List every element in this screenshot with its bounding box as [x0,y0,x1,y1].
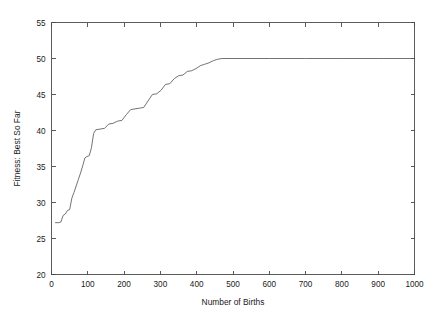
y-tick-label: 35 [36,163,46,172]
y-tick-label: 30 [36,199,46,208]
x-tick-label: 1000 [405,280,424,289]
x-tick-label: 600 [262,280,276,289]
y-tick-label: 20 [36,271,46,280]
y-tick-label: 55 [36,19,46,28]
plot-frame [52,23,415,275]
x-tick-label: 200 [117,280,131,289]
x-tick-label: 700 [299,280,313,289]
x-tick-label: 0 [49,280,54,289]
chart-canvas: 01002003004005006007008009001000 2025303… [0,0,442,320]
x-tick-label: 800 [335,280,349,289]
x-tick-label: 300 [154,280,168,289]
y-axis-label: Fitness: Best So Far [12,110,22,186]
x-axis-ticks [52,23,415,275]
x-axis-tick-labels: 01002003004005006007008009001000 [49,280,424,289]
y-axis-ticks [52,23,415,275]
x-tick-label: 900 [371,280,385,289]
x-tick-label: 100 [81,280,95,289]
y-tick-label: 25 [36,235,46,244]
x-axis-label: Number of Births [202,297,265,307]
axes-border [52,23,415,275]
y-axis-tick-labels: 2025303540455055 [36,19,46,280]
y-tick-label: 45 [36,91,46,100]
figure-container: 01002003004005006007008009001000 2025303… [0,0,442,320]
best-so-far-line [55,59,414,223]
y-tick-label: 40 [36,127,46,136]
x-tick-label: 400 [190,280,204,289]
x-tick-label: 500 [226,280,240,289]
y-tick-label: 50 [36,55,46,64]
